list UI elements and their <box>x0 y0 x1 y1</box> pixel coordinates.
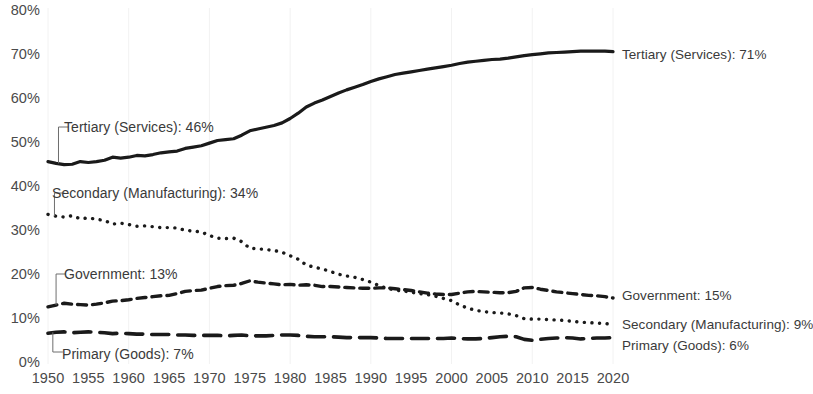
x-tick-1950: 1950 <box>25 370 71 386</box>
y-tick-30: 30% <box>0 222 40 238</box>
y-tick-80: 80% <box>0 2 40 18</box>
y-tick-20: 20% <box>0 266 40 282</box>
series-line-primary-goods <box>48 332 613 340</box>
x-tick-1990: 1990 <box>348 370 394 386</box>
y-tick-40: 40% <box>0 178 40 194</box>
end-label-government: Government: 15% <box>622 288 732 303</box>
x-tick-2015: 2015 <box>550 370 596 386</box>
x-tick-1970: 1970 <box>186 370 232 386</box>
series-line-government <box>48 281 613 307</box>
x-tick-2010: 2010 <box>509 370 555 386</box>
end-label-secondary: Secondary (Manufacturing): 9% <box>622 317 813 332</box>
x-tick-1955: 1955 <box>65 370 111 386</box>
annotation-tertiary-start: Tertiary (Services): 46% <box>64 119 214 135</box>
x-tick-1995: 1995 <box>388 370 434 386</box>
x-tick-2020: 2020 <box>590 370 636 386</box>
end-label-tertiary: Tertiary (Services): 71% <box>622 47 767 62</box>
x-tick-1960: 1960 <box>106 370 152 386</box>
x-tick-1965: 1965 <box>146 370 192 386</box>
annotation-government-start: Government: 13% <box>64 266 178 282</box>
y-tick-10: 10% <box>0 310 40 326</box>
end-label-primary: Primary (Goods): 6% <box>622 338 749 353</box>
x-tick-2000: 2000 <box>429 370 475 386</box>
annotation-secondary-start: Secondary (Manufacturing): 34% <box>52 185 258 201</box>
x-tick-1980: 1980 <box>267 370 313 386</box>
annotation-leaders-group <box>53 127 69 352</box>
series-line-tertiary-services <box>48 51 613 165</box>
x-tick-2005: 2005 <box>469 370 515 386</box>
annotation-primary-start: Primary (Goods): 7% <box>62 346 194 362</box>
y-tick-0: 0% <box>0 354 40 370</box>
x-tick-1975: 1975 <box>227 370 273 386</box>
y-tick-60: 60% <box>0 90 40 106</box>
x-tick-1985: 1985 <box>308 370 354 386</box>
y-tick-50: 50% <box>0 134 40 150</box>
y-tick-70: 70% <box>0 46 40 62</box>
